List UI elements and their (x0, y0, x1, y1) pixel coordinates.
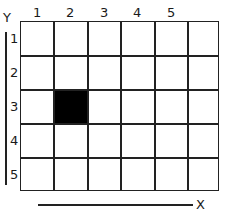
x-axis-label: X (196, 198, 205, 211)
x-label-2: 2 (66, 6, 74, 19)
grid-hline (21, 123, 218, 125)
y-label-1: 1 (10, 32, 18, 45)
x-label-1: 1 (33, 6, 41, 19)
grid-hline (21, 55, 218, 57)
x-axis-line (38, 204, 193, 206)
y-label-5: 5 (10, 168, 18, 181)
y-label-2: 2 (10, 66, 18, 79)
y-axis-line (5, 32, 7, 185)
y-label-4: 4 (10, 134, 18, 147)
x-label-5: 5 (167, 6, 175, 19)
grid-vline (120, 22, 122, 190)
filled-cell (53, 89, 87, 124)
x-label-3: 3 (100, 6, 108, 19)
x-label-4: 4 (133, 6, 141, 19)
grid-hline (21, 89, 218, 91)
grid-vline (87, 22, 89, 190)
y-label-3: 3 (10, 100, 18, 113)
grid-vline (154, 22, 156, 190)
grid-vline (53, 22, 55, 190)
grid-vline (187, 22, 189, 190)
y-axis-label: Y (3, 11, 11, 24)
grid (20, 21, 219, 191)
grid-hline (21, 157, 218, 159)
